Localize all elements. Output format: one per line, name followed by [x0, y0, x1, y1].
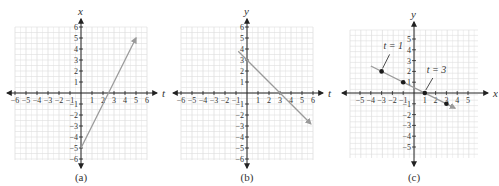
- y-tick-label: 5: [74, 34, 78, 43]
- x-tick-label: 4: [455, 96, 459, 105]
- y-tick-label: −5: [69, 144, 78, 153]
- point-annotation: t = 3: [427, 64, 447, 75]
- y-tick-label: −6: [235, 155, 244, 164]
- y-tick-label: 2: [74, 67, 78, 76]
- point-annotation: t = 1: [384, 40, 404, 51]
- y-tick-label: 4: [74, 45, 78, 54]
- x-tick-label: −3: [210, 96, 219, 105]
- x-tick-label: −5: [356, 96, 365, 105]
- x-tick-label: 2: [267, 96, 271, 105]
- x-tick-label: 1: [256, 96, 260, 105]
- y-tick-label: 2: [407, 67, 411, 76]
- x-tick-label: −2: [388, 96, 397, 105]
- y-tick-label: −1: [402, 100, 411, 109]
- y-tick-label: −4: [402, 132, 411, 141]
- panel-caption: (c): [408, 171, 421, 184]
- y-tick-label: −1: [235, 100, 244, 109]
- x-tick-label: 1: [90, 96, 94, 105]
- x-tick-label: −4: [33, 96, 42, 105]
- x-tick-label: 3: [112, 96, 116, 105]
- x-tick-label: −3: [377, 96, 386, 105]
- y-tick-label: 4: [240, 45, 244, 54]
- x-tick-label: 6: [145, 96, 149, 105]
- y-tick-label: 5: [407, 35, 411, 44]
- y-tick-label: −2: [69, 111, 78, 120]
- x-tick-label: 1: [423, 96, 427, 105]
- y-tick-label: 3: [240, 56, 244, 65]
- x-tick-label: 5: [466, 96, 470, 105]
- x-axis-label: x: [492, 87, 498, 99]
- y-tick-label: −4: [69, 133, 78, 142]
- x-tick-label: −2: [55, 96, 64, 105]
- y-tick-label: −3: [235, 122, 244, 131]
- x-tick-label: 5: [134, 96, 138, 105]
- y-tick-label: 2: [240, 67, 244, 76]
- y-tick-label: −1: [69, 100, 78, 109]
- x-tick-label: 3: [278, 96, 282, 105]
- x-tick-label: −6: [177, 96, 186, 105]
- x-tick-label: −4: [367, 96, 376, 105]
- y-tick-label: 1: [74, 78, 78, 87]
- y-tick-label: 6: [240, 23, 244, 32]
- y-tick-label: −3: [402, 121, 411, 130]
- x-tick-label: −2: [221, 96, 230, 105]
- y-tick-label: 4: [407, 46, 411, 55]
- y-tick-label: −2: [235, 111, 244, 120]
- x-tick-label: 4: [123, 96, 127, 105]
- y-tick-label: −4: [235, 133, 244, 142]
- data-point: [423, 91, 428, 96]
- y-tick-label: 3: [407, 57, 411, 66]
- y-tick-label: 3: [74, 56, 78, 65]
- y-axis-label: x: [77, 5, 83, 17]
- panel-caption: (b): [241, 171, 254, 184]
- x-tick-label: −5: [188, 96, 197, 105]
- data-point: [379, 69, 384, 74]
- x-tick-label: 5: [300, 96, 304, 105]
- x-tick-label: 6: [311, 96, 315, 105]
- y-tick-label: 5: [240, 34, 244, 43]
- y-tick-label: 6: [74, 23, 78, 32]
- y-tick-label: −6: [69, 155, 78, 164]
- y-tick-label: −5: [402, 143, 411, 152]
- graph-panel-c: xy−5−4−3−2−112345−5−4−3−2−112345t = 1t =…: [332, 0, 498, 186]
- x-tick-label: −6: [11, 96, 20, 105]
- panel-caption: (a): [75, 171, 88, 184]
- y-tick-label: −3: [69, 122, 78, 131]
- x-tick-label: −4: [199, 96, 208, 105]
- y-axis-label: y: [410, 8, 416, 20]
- data-point: [401, 80, 406, 85]
- x-tick-label: −3: [44, 96, 53, 105]
- y-tick-label: −2: [402, 111, 411, 120]
- graph-panel-b: ty−6−5−4−3−2−1123456−6−5−4−3−2−1123456(b…: [166, 0, 332, 186]
- y-axis-label: y: [243, 5, 249, 17]
- y-tick-label: 1: [240, 78, 244, 87]
- graph-panel-a: tx−6−5−4−3−2−1123456−6−5−4−3−2−1123456(a…: [0, 0, 166, 186]
- y-tick-label: −5: [235, 144, 244, 153]
- x-tick-label: −5: [22, 96, 31, 105]
- data-point: [444, 102, 449, 107]
